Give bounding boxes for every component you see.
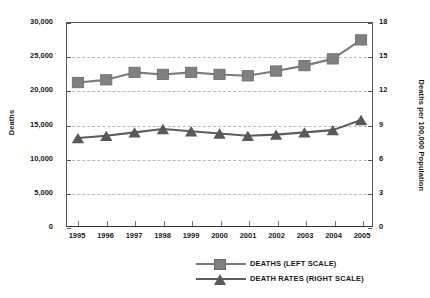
legend-label-death-rates: DEATH RATES (RIGHT SCALE) [246,274,364,283]
data-point-square [242,71,253,81]
data-point-square [271,66,282,76]
chart-legend: DEATHS (LEFT SCALE) DEATH RATES (RIGHT S… [196,256,364,286]
data-point-square [129,67,140,77]
data-point-square [299,60,310,70]
right-tick-label: 12 [379,86,387,94]
right-tick-label: 18 [379,18,387,26]
left-tick-label: 20,000 [0,86,53,94]
right-tick-mark [368,228,372,229]
left-tick-label: 0 [0,223,53,231]
data-point-square [186,67,197,77]
right-tick-label: 6 [379,155,383,163]
left-tick-label: 25,000 [0,52,53,60]
right-axis-title: Deaths per 100,000 Population [417,80,426,166]
data-point-square [327,54,338,64]
legend-item-deaths: DEATHS (LEFT SCALE) [196,256,364,271]
right-tick-label: 9 [379,121,383,129]
left-tick-label: 10,000 [0,155,53,163]
data-point-square [157,69,168,79]
legend-triangle-marker-icon [196,272,246,286]
data-point-square [101,75,112,85]
left-tick-label: 5,000 [0,189,53,197]
legend-square-marker-icon [196,257,246,271]
data-point-triangle [355,115,367,125]
right-tick-label: 15 [379,52,387,60]
legend-item-death-rates: DEATH RATES (RIGHT SCALE) [196,271,364,286]
right-tick-label: 0 [379,223,383,231]
left-tick-label: 30,000 [0,18,53,26]
data-point-square [72,77,83,87]
legend-label-deaths: DEATHS (LEFT SCALE) [246,259,336,268]
right-tick-label: 3 [379,189,383,197]
data-point-square [356,35,367,45]
left-tick-mark [67,228,71,229]
chart-container: Deaths Deaths per 100,000 Population 199… [0,0,430,298]
left-tick-label: 15,000 [0,121,53,129]
data-point-square [214,69,225,79]
x-tick-label: 2005 [342,232,382,240]
plot-area [66,22,373,227]
series-plot [67,23,372,226]
